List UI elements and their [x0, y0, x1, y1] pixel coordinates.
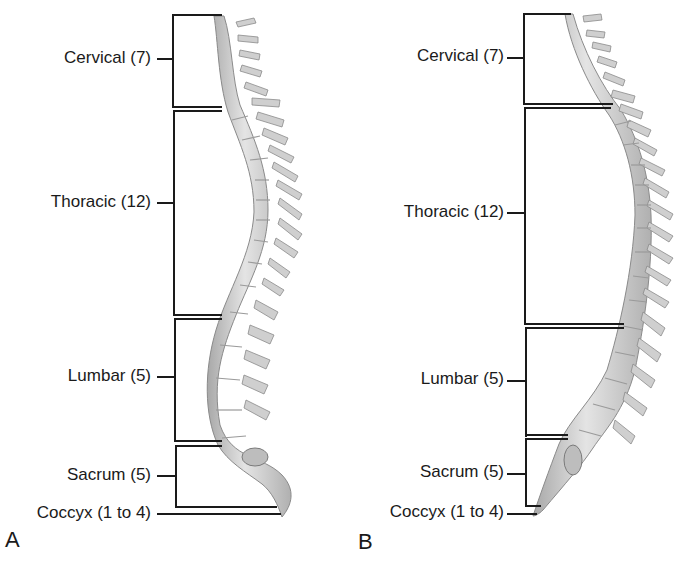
bracket-lumbar-sacrum-b2 — [526, 438, 568, 440]
bracket-cervical-thoracic-b — [523, 103, 613, 105]
label-thoracic-b: Thoracic (12) — [404, 202, 504, 222]
bracket-sacrum-bottom-a — [175, 506, 277, 508]
tick-lumbar-a — [157, 376, 174, 378]
spine-illustration-b — [343, 0, 686, 564]
bracket-sacrum-a — [175, 445, 177, 508]
bracket-thoracic-lumbar-a2 — [174, 318, 222, 320]
bracket-thoracic-b — [524, 107, 526, 325]
tick-coccyx-a — [157, 513, 281, 515]
label-cervical-b: Cervical (7) — [417, 46, 504, 66]
tick-cervical-a — [157, 58, 173, 60]
tick-thoracic-a — [157, 202, 173, 204]
bracket-cervical-thoracic-a2 — [174, 110, 222, 112]
panel-letter-a: A — [5, 528, 20, 552]
bracket-thoracic-a — [173, 110, 175, 316]
tick-coccyx-b — [507, 513, 537, 515]
tick-cervical-b — [507, 57, 524, 59]
label-lumbar-b: Lumbar (5) — [421, 369, 504, 389]
label-sacrum-b: Sacrum (5) — [420, 462, 504, 482]
bracket-lumbar-b — [525, 327, 527, 437]
bracket-cervical-thoracic-a — [172, 106, 222, 108]
bracket-lumbar-sacrum-a — [174, 440, 222, 442]
label-coccyx-a: Coccyx (1 to 4) — [37, 503, 151, 523]
bracket-thoracic-lumbar-a — [174, 314, 222, 316]
bracket-cervical-a — [172, 14, 174, 107]
label-sacrum-a: Sacrum (5) — [67, 465, 151, 485]
bracket-top-cervical-b — [523, 13, 571, 15]
label-lumbar-a: Lumbar (5) — [68, 366, 151, 386]
label-coccyx-b: Coccyx (1 to 4) — [390, 502, 504, 522]
bracket-lumbar-sacrum-b — [525, 434, 568, 436]
bracket-cervical-b — [523, 13, 525, 105]
bracket-lumbar-a — [174, 318, 176, 442]
panel-letter-b: B — [358, 530, 373, 554]
bracket-sacrum-b — [525, 438, 527, 506]
panel-a: Cervical (7) Thoracic (12) Lumbar (5) Sa… — [0, 0, 343, 564]
tick-thoracic-b — [507, 212, 524, 214]
tick-sacrum-a — [157, 475, 175, 477]
tick-lumbar-b — [507, 380, 525, 382]
bracket-thoracic-lumbar-b2 — [525, 327, 624, 329]
bracket-top-cervical-a — [172, 14, 222, 16]
bracket-thoracic-lumbar-b — [524, 323, 624, 325]
panel-b: Cervical (7) Thoracic (12) Lumbar (5) Sa… — [343, 0, 686, 564]
label-cervical-a: Cervical (7) — [64, 48, 151, 68]
bracket-lumbar-sacrum-a2 — [175, 445, 222, 447]
label-thoracic-a: Thoracic (12) — [51, 192, 151, 212]
bracket-sacrum-bottom-b — [525, 505, 541, 507]
bracket-cervical-thoracic-b2 — [525, 107, 611, 109]
tick-sacrum-b — [507, 473, 525, 475]
